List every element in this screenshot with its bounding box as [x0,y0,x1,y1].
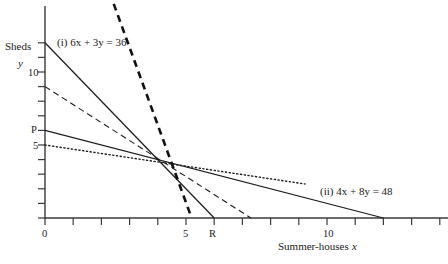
point-label-P: P [31,124,37,135]
point-label-R: R [209,228,216,239]
y-tick-label-5: 5 [33,140,38,151]
constraint-i-label: (i) 6x + 3y = 36 [57,36,127,49]
x-axis-variable: x [351,240,357,252]
y-axis-variable: y [17,57,23,69]
graph-figure: (i) 6x + 3y = 36 (ii) 4x + 8y = 48 Sheds… [0,0,448,264]
y-axis [38,6,45,219]
x-axis [45,218,448,225]
linear-programming-chart: (i) 6x + 3y = 36 (ii) 4x + 8y = 48 Sheds… [0,0,448,264]
x-tick-label-10: 10 [323,228,334,239]
line-constraint-i [45,43,214,218]
y-tick-label-10: 10 [28,67,39,78]
constraint-ii-label: (ii) 4x + 8y = 48 [320,185,393,198]
line-objective-shallow [45,87,251,218]
x-tick-label-0: 0 [42,228,47,239]
y-axis-title: Sheds [5,40,31,52]
y-axis-ticks [38,43,45,218]
line-objective-steep [101,0,191,218]
x-axis-title: Summer-houses [278,240,349,252]
x-tick-label-5: 5 [183,228,188,239]
line-constraint-ii [45,130,383,218]
x-axis-ticks [45,218,440,225]
